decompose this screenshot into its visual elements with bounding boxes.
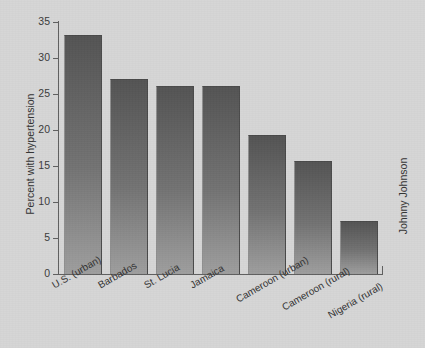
y-tick-label: 10 bbox=[22, 196, 50, 207]
y-tick-label: 35 bbox=[22, 16, 50, 27]
bar bbox=[64, 35, 102, 274]
y-axis-title: Percent with hypertension bbox=[24, 54, 36, 254]
bar-chart: Percent with hypertension 35302520151050… bbox=[0, 0, 425, 348]
bar bbox=[110, 79, 148, 274]
bar bbox=[156, 86, 194, 274]
y-tick-label: 0 bbox=[22, 268, 50, 279]
x-tick-label: Nigeria (rural) bbox=[326, 280, 384, 320]
y-tick-label: 20 bbox=[22, 124, 50, 135]
y-axis-line bbox=[58, 21, 59, 275]
bar bbox=[248, 135, 286, 274]
x-axis-end-tick bbox=[382, 266, 383, 275]
y-tick-label: 25 bbox=[22, 88, 50, 99]
credit-label: Johnny Johnson bbox=[397, 131, 409, 261]
y-tick-label: 5 bbox=[22, 232, 50, 243]
y-tick-label: 30 bbox=[22, 52, 50, 63]
bar bbox=[202, 86, 240, 274]
y-tick-label: 15 bbox=[22, 160, 50, 171]
